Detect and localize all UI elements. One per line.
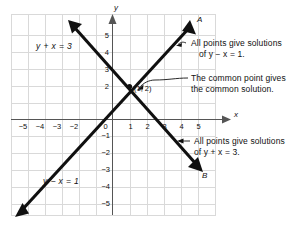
annotation-common-point-row1: The common point gives (191, 73, 286, 84)
x-tick-label-2: 2 (143, 122, 152, 131)
y-tick-label--2: −2 (98, 148, 110, 157)
annotation-line-b: All points give solutions of y + x = 3. (194, 136, 285, 157)
x-tick-label-4: 4 (177, 122, 186, 131)
x-axis-name: x (234, 110, 238, 119)
y-tick-label-3: 3 (100, 65, 109, 74)
line-label-a: A (197, 15, 202, 24)
annotation-common-point-row2: the common solution. (191, 84, 286, 95)
y-tick-label--4: −4 (98, 182, 110, 191)
x-tick-label--3: −3 (51, 122, 63, 131)
line-b-y-plus-x-equals-3 (68, 20, 203, 172)
annotation-line-b-row1: All points give solutions (194, 136, 285, 147)
x-tick-label--4: −4 (34, 122, 46, 131)
y-tick-label--3: −3 (98, 165, 110, 174)
y-tick-label-4: 4 (100, 48, 109, 57)
x-tick-label-3: 3 (160, 122, 169, 131)
annotation-line-b-row2: of y + x = 3. (194, 147, 285, 158)
annotation-common-point: The common point gives the common soluti… (191, 73, 286, 94)
equation-label-descending: y + x = 3 (36, 41, 72, 51)
y-tick-label--1: −1 (98, 131, 110, 140)
intersection-point-label: (1, 2) (134, 84, 152, 93)
line-label-b: B (202, 171, 207, 180)
x-tick-label-5: 5 (194, 122, 203, 131)
x-tick-label-1: 1 (126, 122, 135, 131)
x-tick-label--5: −5 (17, 122, 29, 131)
x-tick-label-0: 0 (101, 122, 110, 131)
y-tick-label-5: 5 (100, 31, 109, 40)
y-tick-label-2: 2 (100, 82, 109, 91)
coordinate-plane-figure: x y −5 −4 −3 −2 0 1 2 3 4 5 5 4 3 2 −1 −… (0, 0, 305, 233)
annotation-line-a-row1: All points give solutions (191, 38, 282, 49)
equation-label-ascending: y − x = 1 (43, 176, 79, 186)
graph-canvas (0, 0, 305, 233)
annotation-line-a: All points give solutions of y − x = 1. (191, 38, 282, 59)
y-axis-name: y (114, 3, 118, 12)
y-tick-label--5: −5 (98, 199, 110, 208)
annotation-line-a-row2: of y − x = 1. (191, 49, 282, 60)
x-tick-label--2: −2 (68, 122, 80, 131)
intersection-point-dot (127, 84, 132, 89)
